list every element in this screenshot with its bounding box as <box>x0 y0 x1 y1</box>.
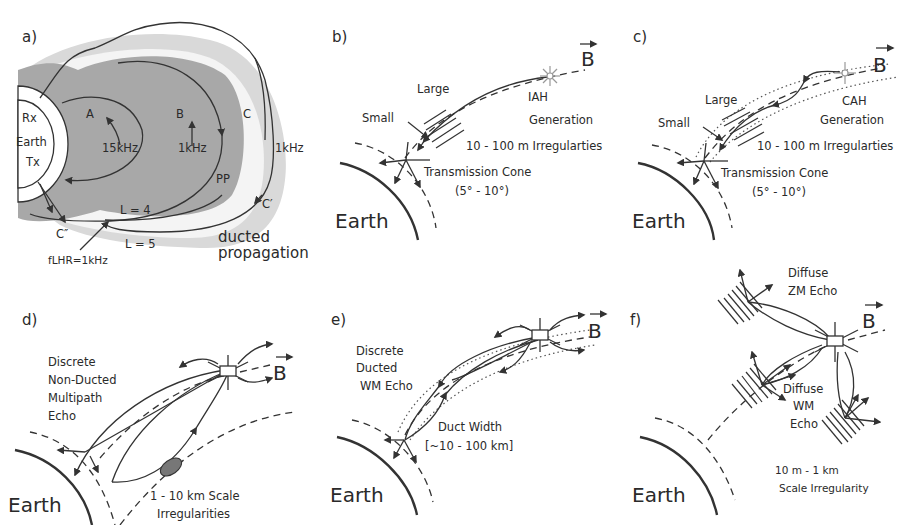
small-pointer-c <box>703 127 722 140</box>
generation-label-c-1: CAH <box>842 94 867 108</box>
lower-echo-path-1 <box>837 352 845 418</box>
panel-label-e: e) <box>331 311 346 329</box>
satellite-icon-f <box>815 322 858 362</box>
earth-label-e: Earth <box>330 483 384 507</box>
duct-width-label-e-2: [~10 - 100 km] <box>425 439 513 453</box>
satellite-icon-d <box>180 344 272 390</box>
irregularity-blob-d <box>157 454 185 479</box>
earth-label-b: Earth <box>335 209 389 233</box>
duct-width-label-e-1: Duct Width <box>438 420 502 434</box>
echo-label-d-2: Non-Ducted <box>48 373 116 387</box>
zm-label-2: ZM Echo <box>788 284 837 298</box>
duct-return-e-2 <box>394 440 404 458</box>
multipath-down <box>90 456 98 472</box>
pp-label: PP <box>216 172 230 186</box>
irregularities-label-c: 10 - 100 m Irregularties <box>757 139 893 153</box>
lower-echo-path-2 <box>845 352 854 418</box>
echo-label-d-1: Discrete <box>48 355 96 369</box>
panel-f: f) Earth <box>630 266 885 515</box>
small-label-b: Small <box>362 111 394 125</box>
panel-d: d) Earth B Discrete Non-Ducted Multipath… <box>8 311 295 525</box>
wm-label-1: Diffuse <box>783 382 823 396</box>
transmission-cone-b <box>380 142 430 187</box>
panel-c: c) Earth B Large Small <box>632 28 898 240</box>
b-vector-label-c: B <box>873 53 887 77</box>
freq-b-label: 1kHz <box>178 141 207 155</box>
tx-label: Tx <box>25 155 40 169</box>
panel-label-f: f) <box>630 311 641 329</box>
figure-canvas: a) Rx Earth Tx A 15kHz B 1kHz PP L = 4 C… <box>0 0 907 525</box>
zm-label-1: Diffuse <box>788 266 828 280</box>
generation-label-b-1: IAH <box>528 90 548 104</box>
zm-echo-path-1 <box>748 302 830 338</box>
echo-label-e-2: Ducted <box>356 361 397 375</box>
b-vector-label-f: B <box>862 309 876 333</box>
small-pointer-b <box>408 122 428 138</box>
flhr-label: fLHR=1kHz <box>48 254 108 266</box>
zm-scatter-1 <box>740 270 748 302</box>
generation-label-b-2: Generation <box>529 113 593 127</box>
hatch-irregularities-b <box>424 110 464 148</box>
b-line-d <box>240 365 270 372</box>
zm-scatter-2 <box>748 285 772 302</box>
panel-label-c: c) <box>633 28 647 46</box>
path-b-label: B <box>176 107 184 121</box>
earth-label-c: Earth <box>632 209 686 233</box>
b-vector-label-d: B <box>273 361 287 385</box>
cone-label-c-2: (5° - 10°) <box>752 185 806 199</box>
cone-label-b-1: Transmission Cone <box>423 165 531 179</box>
cone-label-c-1: Transmission Cone <box>720 166 828 180</box>
earth-label-f: Earth <box>632 483 686 507</box>
panel-label-b: b) <box>332 28 347 46</box>
iah-source-icon <box>540 66 560 86</box>
ducted-label-2: propagation <box>218 244 309 262</box>
large-label-b: Large <box>417 82 449 96</box>
irregularities-label-d-1: 1 - 10 km Scale <box>150 489 240 503</box>
multipath-return <box>58 450 85 452</box>
freq-a-label: 15kHz <box>102 141 138 155</box>
panel-a: a) Rx Earth Tx A 15kHz B 1kHz PP L = 4 C… <box>16 23 309 266</box>
earth-label-d: Earth <box>8 493 62 517</box>
echo-label-d-4: Echo <box>48 409 76 423</box>
field-line-d <box>100 375 228 458</box>
path-a-label: A <box>86 107 94 121</box>
earth-label-a: Earth <box>16 135 47 149</box>
echo-label-d-3: Multipath <box>48 391 102 405</box>
rx-label: Rx <box>22 111 37 125</box>
b-vector-label-e: B <box>588 319 602 343</box>
irregularity-label-f-2: Scale Irregularity <box>779 482 869 494</box>
irregularities-label-d-2: Irregularities <box>157 507 230 521</box>
echo-label-e-3: WM Echo <box>360 379 413 393</box>
l4-label: L = 4 <box>120 203 151 217</box>
echo-label-e-1: Discrete <box>356 344 404 358</box>
c-dprime-label: C″ <box>56 227 69 241</box>
panel-label-d: d) <box>22 311 37 329</box>
wm-label-3: Echo <box>790 417 818 431</box>
cah-source-icon <box>834 62 856 84</box>
wm-label-2: WM <box>793 399 814 413</box>
c-prime-label: C′ <box>262 197 273 211</box>
panel-b: b) Earth B Large Small <box>332 28 602 240</box>
b-vector-label-b: B <box>581 47 595 71</box>
lower-scatter-2 <box>845 418 880 422</box>
irregularities-label-b: 10 - 100 m Irregularties <box>466 139 602 153</box>
large-label-c: Large <box>705 93 737 107</box>
hatch-irregularity-wm <box>732 364 776 408</box>
panel-label-a: a) <box>22 28 37 46</box>
panel-e: e) Earth B Discrete Ducted WM Echo Duct … <box>330 311 606 515</box>
generation-label-c-2: Generation <box>820 113 884 127</box>
zm-echo-path-2 <box>748 302 830 340</box>
irregularity-label-f-1: 10 m - 1 km <box>775 464 839 476</box>
freq-c-label: 1kHz <box>275 141 304 155</box>
cone-label-b-2: (5° - 10°) <box>455 184 509 198</box>
duct-path-e-3 <box>452 339 538 380</box>
duct-edge-e-1 <box>398 330 590 432</box>
small-label-c: Small <box>658 116 690 130</box>
path-c-label: C <box>243 107 251 121</box>
l5-label: L = 5 <box>125 237 156 251</box>
